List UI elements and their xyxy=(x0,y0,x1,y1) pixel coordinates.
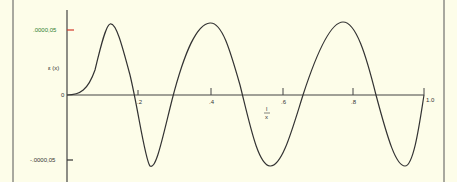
x-axis-label-num: l xyxy=(266,106,267,112)
epsilon-curve xyxy=(67,22,424,166)
x-tick-label: .8 xyxy=(351,99,357,105)
x-tick-label: .4 xyxy=(209,99,215,105)
x-tick-label: 1.0 xyxy=(426,97,435,103)
y-axis-label: ε (x) xyxy=(48,65,59,71)
chart: .0000,05 ε (x) 0 -.0000,05 .2 .4 .6 .8 1… xyxy=(0,0,457,182)
y-tick-label-zero: 0 xyxy=(61,92,65,98)
y-tick-label-lower: -.0000,05 xyxy=(30,157,56,163)
x-axis-label-den: x xyxy=(265,114,268,120)
x-tick-label: .6 xyxy=(281,99,287,105)
y-tick-label-upper: .0000,05 xyxy=(33,27,57,33)
x-tick-label: .2 xyxy=(137,99,143,105)
